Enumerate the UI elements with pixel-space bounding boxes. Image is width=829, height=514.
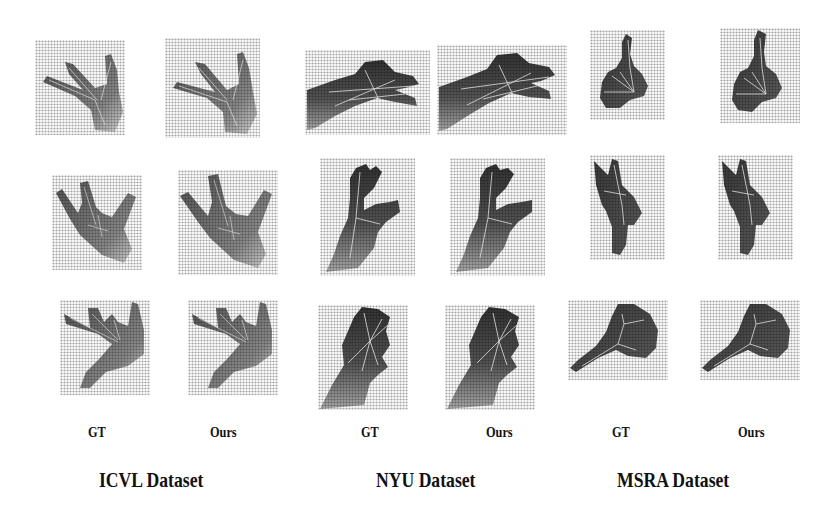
msra-row1-gt [590,30,665,120]
nyu-row1-gt [305,50,430,135]
hand-depth-gt-image [52,175,142,270]
msra-row1-ours [720,28,800,123]
hand-depth-pred-image [445,305,535,410]
column-label-msra-ours: Ours [738,424,765,441]
nyu-row3-ours [445,305,535,410]
hand-depth-pred-image [720,28,800,123]
hand-depth-pred-image [437,45,567,135]
nyu-row2-ours [450,158,545,276]
nyu-row3-gt [318,305,408,410]
dataset-label-msra: MSRA Dataset [617,468,729,493]
msra-row3-gt [568,300,668,380]
hand-depth-pred-image [700,300,800,380]
nyu-row1-ours [437,45,567,135]
column-label-msra-gt: GT [612,424,630,441]
hand-depth-pred-image [188,300,278,395]
msra-row2-gt [590,155,665,260]
msra-row2-ours [718,155,793,260]
dataset-label-icvl: ICVL Dataset [99,468,203,493]
column-label-nyu-gt: GT [361,424,379,441]
icvl-row3-gt [60,300,150,395]
icvl-row2-ours [178,170,278,275]
msra-row3-ours [700,300,800,380]
column-label-nyu-ours: Ours [486,424,513,441]
hand-depth-pred-image [165,38,260,138]
hand-depth-gt-image [568,300,668,380]
column-label-icvl-gt: GT [88,424,106,441]
dataset-label-nyu: NYU Dataset [376,468,475,493]
column-label-icvl-ours: Ours [210,424,237,441]
icvl-row2-gt [52,175,142,270]
hand-depth-pred-image [718,155,793,260]
hand-depth-pred-image [178,170,278,275]
hand-depth-gt-image [590,155,665,260]
hand-depth-gt-image [318,305,408,410]
nyu-row2-gt [320,158,415,276]
hand-depth-gt-image [35,40,125,135]
icvl-row3-ours [188,300,278,395]
icvl-row1-ours [165,38,260,138]
hand-depth-gt-image [305,50,430,135]
icvl-row1-gt [35,40,125,135]
hand-depth-gt-image [590,30,665,120]
hand-depth-gt-image [320,158,415,276]
hand-depth-pred-image [450,158,545,276]
hand-depth-gt-image [60,300,150,395]
